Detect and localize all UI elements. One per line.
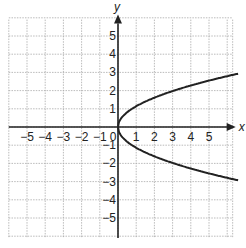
y-tick-label: 1 xyxy=(109,102,116,116)
y-tick-label: 4 xyxy=(109,47,116,61)
x-axis-arrow-icon xyxy=(227,123,236,131)
y-axis-arrow-icon xyxy=(114,15,122,24)
y-tick-label: −5 xyxy=(102,211,116,225)
x-tick-label: 1 xyxy=(133,130,140,144)
graph: xy−5−4−3−2−101234554321−1−2−3−4−5 xyxy=(0,0,246,248)
x-tick-label: −5 xyxy=(20,130,34,144)
y-tick-label: 2 xyxy=(109,84,116,98)
y-tick-label: −1 xyxy=(102,138,116,152)
x-tick-label: −4 xyxy=(38,130,52,144)
x-tick-label: 2 xyxy=(151,130,158,144)
curve-upper-branch xyxy=(118,74,238,127)
y-tick-label: −2 xyxy=(102,156,116,170)
x-tick-label: −2 xyxy=(75,130,89,144)
y-tick-label: −4 xyxy=(102,193,116,207)
y-tick-label: 3 xyxy=(109,65,116,79)
y-tick-label: −3 xyxy=(102,175,116,189)
x-tick-label: 5 xyxy=(206,130,213,144)
y-tick-label: 5 xyxy=(109,29,116,43)
x-tick-label: 4 xyxy=(187,130,194,144)
y-axis-label: y xyxy=(113,0,121,14)
x-axis-label: x xyxy=(238,120,246,134)
x-tick-label: −3 xyxy=(57,130,71,144)
x-tick-label: 3 xyxy=(169,130,176,144)
